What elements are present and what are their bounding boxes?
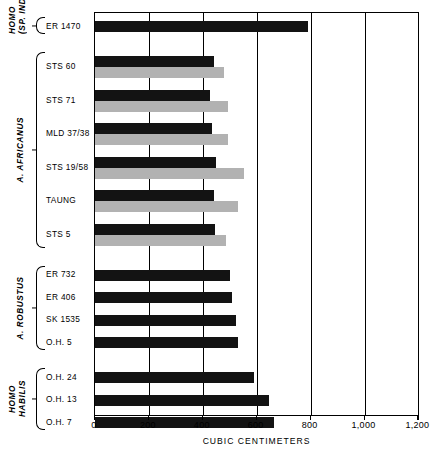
gridline-800 [311,13,312,415]
bar [95,157,216,168]
tick-label-600: 600 [248,420,264,430]
bar [95,372,254,383]
specimen-label: STS 60 [46,61,76,71]
tick-label-1200: 1,200 [405,420,429,430]
bar [95,21,308,32]
bar [95,270,230,281]
specimen-label: SK 1535 [46,314,80,324]
specimen-label: STS 71 [46,95,76,105]
group-name: A. AFRICANUS [16,52,26,248]
bar [95,134,228,145]
tick-label-0: 0 [91,420,96,430]
specimen-label: STS 19/58 [46,162,88,172]
tick-label-1000: 1,000 [351,420,375,430]
bar [95,224,215,235]
group-name: A. ROBUSTUS [16,266,26,351]
group-brace [36,17,45,34]
specimen-label: TAUNG [46,195,76,205]
bar [95,201,238,212]
specimen-label: O.H. 13 [46,394,77,404]
specimen-label: STS 5 [46,229,71,239]
tick-label-800: 800 [302,420,318,430]
bar [95,292,232,303]
figure-caption [14,452,314,457]
bar [95,337,238,348]
tick-label-200: 200 [140,420,156,430]
gridline-600 [257,13,258,415]
specimen-label: ER 732 [46,269,76,279]
bar [95,67,224,78]
group-name: HOMO (SP. IND.) [8,17,28,34]
bar [95,315,236,326]
group-name: HOMO HABILIS [8,368,28,430]
bar [95,235,226,246]
gridline-1000 [365,13,366,415]
cranial-capacity-chart-figure: ER 1470STS 60STS 71MLD 37/38STS 19/58TAU… [0,0,436,457]
group-brace [36,266,45,351]
x-axis-title: CUBIC CENTIMETERS [94,436,419,446]
bar [95,395,269,406]
specimen-label-column: ER 1470STS 60STS 71MLD 37/38STS 19/58TAU… [0,0,94,414]
specimen-label: MLD 37/38 [46,128,90,138]
bar [95,190,214,201]
bar [95,90,210,101]
specimen-label: O.H. 7 [46,417,72,427]
specimen-label: O.H. 5 [46,337,72,347]
tick-label-400: 400 [194,420,210,430]
bar [95,168,244,179]
specimen-label: O.H. 24 [46,372,77,382]
bar [95,101,228,112]
specimen-label: ER 406 [46,292,76,302]
group-brace [36,52,45,248]
group-brace [36,368,45,430]
specimen-label: ER 1470 [46,21,81,31]
bar [95,123,212,134]
chart-plot-area [94,12,419,416]
bar [95,56,214,67]
